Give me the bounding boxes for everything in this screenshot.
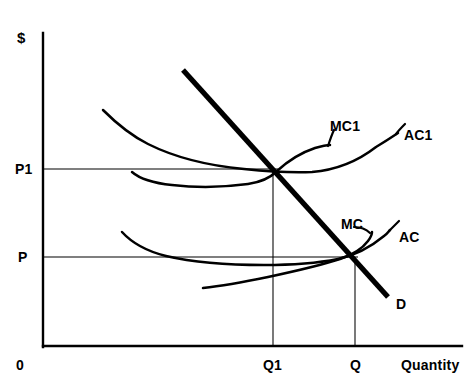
economics-diagram: $ P1 P 0 Q1 Q Quantity MC1 AC1 MC AC D <box>0 0 472 390</box>
ac-curve <box>122 230 390 265</box>
curve-label-demand: D <box>396 297 406 311</box>
chart-canvas <box>0 0 472 390</box>
y-tick-label-p: P <box>18 250 28 264</box>
origin-label: 0 <box>16 358 24 372</box>
curve-label-mc1: MC1 <box>330 119 360 133</box>
x-axis-name: Quantity <box>401 358 459 372</box>
guide-lines-group <box>43 169 358 346</box>
mc-curve <box>203 232 372 288</box>
y-axis-name: $ <box>17 30 26 45</box>
curve-label-ac1: AC1 <box>404 128 433 142</box>
x-tick-label-q1: Q1 <box>263 358 282 372</box>
x-tick-label-q: Q <box>350 358 361 372</box>
curve-label-mc: MC <box>341 217 363 231</box>
y-tick-label-p1: P1 <box>15 162 33 176</box>
ac-leader-line <box>389 221 399 231</box>
curve-label-ac: AC <box>399 230 420 244</box>
